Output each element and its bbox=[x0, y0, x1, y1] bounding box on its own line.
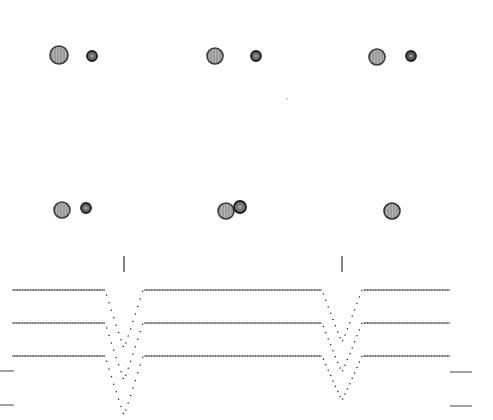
light-curve-2 bbox=[12, 322, 450, 379]
transit-figure bbox=[0, 0, 493, 420]
snapshot-frame-top-2 bbox=[207, 48, 261, 64]
snapshot-frame-bottom-1 bbox=[54, 202, 91, 218]
star-icon bbox=[218, 203, 234, 219]
speck-dot bbox=[286, 98, 288, 100]
planet-highlight bbox=[84, 206, 88, 210]
transit-markers bbox=[124, 256, 342, 272]
star-icon bbox=[54, 202, 70, 218]
snapshot-frame-top-1 bbox=[50, 46, 97, 64]
figure-canvas bbox=[0, 0, 493, 420]
planet-highlight bbox=[409, 54, 413, 58]
star-icon bbox=[50, 46, 68, 64]
noise-speck bbox=[286, 98, 288, 100]
planet-highlight bbox=[90, 54, 94, 58]
snapshot-frame-top-3 bbox=[369, 49, 416, 65]
orbit-snapshots bbox=[50, 46, 416, 219]
snapshot-frame-bottom-2 bbox=[218, 201, 246, 219]
planet-highlight bbox=[254, 54, 258, 58]
snapshot-frame-bottom-3 bbox=[384, 203, 400, 219]
planet-highlight bbox=[238, 205, 242, 209]
side-markers bbox=[0, 371, 472, 406]
light-curve-1 bbox=[12, 289, 450, 347]
light-curve-3 bbox=[12, 355, 450, 414]
star-icon bbox=[369, 49, 385, 65]
light-curves bbox=[12, 289, 450, 414]
star-icon bbox=[207, 48, 223, 64]
star-icon bbox=[384, 203, 400, 219]
